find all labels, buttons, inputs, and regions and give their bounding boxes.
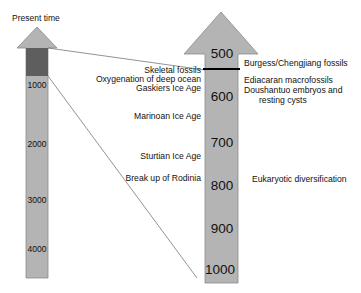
event-marinoan-ice-age: Marinoan Ice Age [134,111,201,121]
event-ediacaran-macrofossils: Ediacaran macrofossils [244,75,333,85]
right-tick-700: 700 [205,135,239,150]
left-tick-3000: 3000 [25,195,49,205]
timeline-graphics [0,0,361,293]
right-tick-900: 900 [205,221,239,236]
right-tick-500: 500 [205,46,239,61]
left-tick-1000: 1000 [25,80,49,90]
event-resting-cysts: resting cysts [259,95,307,105]
event-gaskiers-ice-age: Gaskiers Ice Age [136,83,201,93]
left-tick-2000: 2000 [25,139,49,149]
left-tick-4000: 4000 [25,244,49,254]
right-tick-800: 800 [205,178,239,193]
zoomed-interval-highlight [26,48,48,76]
left-time-arrow [17,27,57,278]
event-doushantuo-embryos: Doushantuo embryos and [244,85,342,95]
event-sturtian-ice-age: Sturtian Ice Age [140,151,201,161]
event-burgess-chengjiang: Burgess/Chengjiang fossils [244,58,348,68]
right-tick-600: 600 [205,89,239,104]
right-tick-1000: 1000 [203,262,237,277]
event-eukaryotic-diversification: Eukaryotic diversification [252,174,347,184]
event-break-up-rodinia: Break up of Rodinia [126,173,201,183]
present-time-label: Present time [12,13,60,23]
